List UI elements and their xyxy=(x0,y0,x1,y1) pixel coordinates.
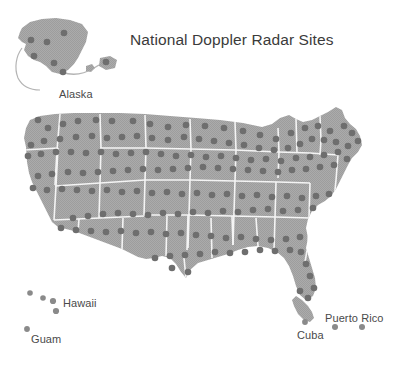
region-label-cuba: Cuba xyxy=(297,329,324,341)
alaska-landmass xyxy=(16,18,117,90)
radar-dots-cuba xyxy=(302,319,308,325)
radar-sites-map-figure: National Doppler Radar Sites Alaska Hawa… xyxy=(0,0,415,372)
region-label-puerto-rico: Puerto Rico xyxy=(325,312,384,324)
radar-dots-puerto-rico xyxy=(332,324,365,330)
radar-dots-hawaii xyxy=(27,290,59,314)
page-title: National Doppler Radar Sites xyxy=(130,31,380,49)
cuba-landmass xyxy=(292,296,314,322)
radar-dots-guam xyxy=(24,326,30,332)
region-label-alaska: Alaska xyxy=(59,88,93,100)
region-label-guam: Guam xyxy=(31,333,61,345)
region-label-hawaii: Hawaii xyxy=(63,297,97,309)
